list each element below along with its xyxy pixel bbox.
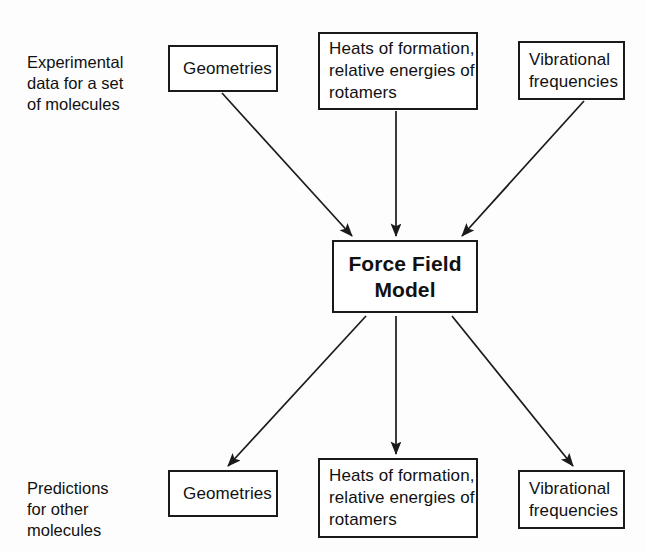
- predictions-text: Predictions for other molecules: [27, 479, 109, 539]
- node-frequencies-output-label: Vibrational frequencies: [520, 478, 623, 522]
- node-heats-input-label: Heats of formation, relative energies of…: [320, 38, 476, 104]
- predictions-label: Predictions for other molecules: [27, 457, 162, 541]
- node-geometries-output[interactable]: Geometries: [168, 470, 278, 517]
- edge-model-to-geometries: [228, 316, 366, 466]
- node-geometries-output-label: Geometries: [170, 483, 276, 505]
- node-geometries-input[interactable]: Geometries: [168, 45, 278, 92]
- diagram-canvas: Experimental data for a set of molecules…: [0, 0, 645, 552]
- node-heats-output[interactable]: Heats of formation, relative energies of…: [318, 458, 478, 538]
- node-frequencies-output[interactable]: Vibrational frequencies: [518, 470, 625, 529]
- node-frequencies-input-label: Vibrational frequencies: [520, 49, 623, 93]
- edge-geometries-to-model: [222, 93, 352, 236]
- node-force-field-model-label: Force Field Model: [334, 251, 476, 303]
- experimental-data-text: Experimental data for a set of molecules: [27, 53, 123, 113]
- edge-frequencies-to-model: [462, 101, 584, 236]
- node-geometries-input-label: Geometries: [170, 58, 276, 80]
- node-force-field-model[interactable]: Force Field Model: [332, 240, 478, 313]
- edge-model-to-frequencies: [452, 316, 573, 466]
- experimental-data-label: Experimental data for a set of molecules: [27, 31, 162, 115]
- node-heats-input[interactable]: Heats of formation, relative energies of…: [318, 32, 478, 110]
- node-heats-output-label: Heats of formation, relative energies of…: [320, 465, 476, 531]
- node-frequencies-input[interactable]: Vibrational frequencies: [518, 41, 625, 100]
